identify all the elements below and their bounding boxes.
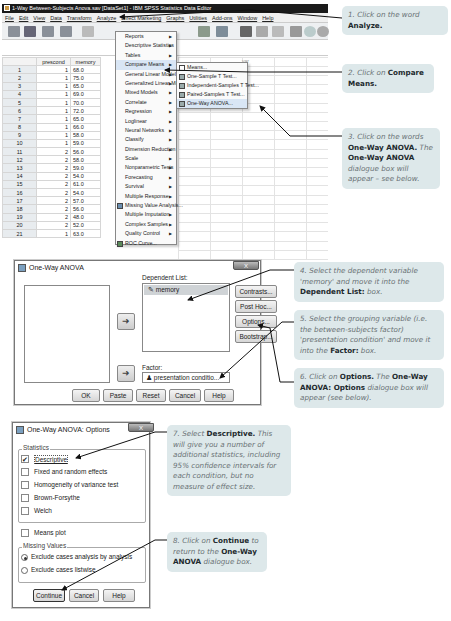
menu-item-nonparametric-tests[interactable]: Nonparametric Tests▶ — [116, 163, 176, 172]
find-icon[interactable] — [198, 26, 210, 37]
fixed-random-effects-checkbox[interactable] — [21, 468, 29, 476]
checkmark-icon: ✔ — [22, 456, 28, 463]
brown-forsythe-label[interactable]: Brown-Forsythe — [34, 494, 80, 501]
post-hoc-button[interactable]: Post Hoc... — [235, 300, 277, 313]
exclude-listwise-radio[interactable] — [21, 567, 28, 574]
descriptive-checkbox[interactable]: ✔ — [21, 455, 29, 463]
ok-button[interactable]: OK — [72, 389, 100, 402]
missing-values-group-label: Missing Values — [22, 542, 67, 549]
insert-cases-icon[interactable] — [216, 26, 228, 37]
analyze-menu: Reports▶ Descriptive Statistics▶ Tables▶… — [115, 31, 177, 245]
print-icon[interactable] — [42, 26, 54, 37]
menu-edit[interactable]: Edit — [19, 13, 28, 22]
paste-button[interactable]: Paste — [103, 389, 133, 402]
menu-item-quality-control[interactable]: Quality Control▶ — [116, 229, 176, 238]
source-variable-list[interactable] — [24, 285, 110, 383]
menu-item-reports[interactable]: Reports▶ — [116, 32, 176, 41]
welch-label[interactable]: Welch — [34, 507, 52, 514]
submenu-arrow-icon: ▶ — [169, 32, 172, 41]
fixed-random-effects-label[interactable]: Fixed and random effects — [34, 468, 107, 475]
menu-transform[interactable]: Transform — [67, 13, 92, 22]
menu-analyze[interactable]: Analyze — [97, 13, 117, 22]
menu-item-correlate[interactable]: Correlate▶ — [116, 98, 176, 107]
submenu-item-paired-samples-t-test[interactable]: Paired-Samples T Test... — [177, 90, 247, 99]
menu-window[interactable]: Window — [238, 13, 258, 22]
menu-item-missing-value-analysis[interactable]: Missing Value Analysis... — [116, 201, 176, 210]
menu-graphs[interactable]: Graphs — [166, 13, 184, 22]
menu-data[interactable]: Data — [50, 13, 62, 22]
select-cases-icon[interactable] — [272, 26, 284, 37]
means-plot-checkbox[interactable] — [21, 529, 29, 537]
weight-cases-icon[interactable] — [256, 26, 268, 37]
column-header-memory[interactable]: memory — [71, 58, 101, 66]
use-sets-icon[interactable] — [304, 26, 316, 37]
close-button[interactable]: X — [233, 261, 259, 270]
menu-item-compare-means[interactable]: Compare Means▶ — [116, 60, 176, 69]
menu-add-ons[interactable]: Add-ons — [212, 13, 233, 22]
submenu-arrow-icon: ▶ — [169, 182, 172, 191]
menu-direct-marketing[interactable]: Direct Marketing — [121, 13, 161, 22]
callout-step-6: 6. Click on Options. The One-Way ANOVA: … — [294, 368, 444, 408]
options-button[interactable]: Options... — [235, 315, 277, 328]
menu-item-generalized-linear-models[interactable]: Generalized Linear Models▶ — [116, 79, 176, 88]
menu-item-multiple-response[interactable]: Multiple Response▶ — [116, 192, 176, 201]
help-button[interactable]: Help — [103, 589, 135, 602]
menu-item-general-linear-model[interactable]: General Linear Model▶ — [116, 70, 176, 79]
menu-help[interactable]: Help — [262, 13, 273, 22]
menu-item-multiple-imputation[interactable]: Multiple Imputation▶ — [116, 210, 176, 219]
continue-button[interactable]: Continue — [33, 589, 65, 602]
submenu-arrow-icon: ▶ — [169, 210, 172, 219]
means-plot-label[interactable]: Means plot — [34, 529, 66, 536]
window-titlebar: 1-Way Between-Subjects Anova.sav [DataSe… — [2, 4, 328, 13]
reset-button[interactable]: Reset — [136, 389, 166, 402]
menu-item-scale[interactable]: Scale▶ — [116, 154, 176, 163]
dialog-recall-icon[interactable] — [60, 26, 72, 37]
menu-item-survival[interactable]: Survival▶ — [116, 182, 176, 191]
homogeneity-label[interactable]: Homogeneity of variance test — [34, 481, 118, 488]
open-icon[interactable] — [8, 26, 20, 37]
exclude-analysis-by-analysis-radio[interactable] — [21, 554, 28, 561]
menu-item-regression[interactable]: Regression▶ — [116, 107, 176, 116]
move-to-dependent-button[interactable]: ➜ — [117, 313, 135, 330]
menu-item-mixed-models[interactable]: Mixed Models▶ — [116, 88, 176, 97]
bootstrap-button[interactable]: Bootstrap... — [235, 330, 277, 343]
descriptive-label[interactable]: Descriptive — [34, 455, 68, 464]
menu-item-complex-samples[interactable]: Complex Samples▶ — [116, 220, 176, 229]
move-to-factor-button[interactable]: ➜ — [117, 365, 135, 382]
submenu-item-independent-samples-t-test[interactable]: Independent-Samples T Test... — [177, 81, 247, 90]
menu-item-classify[interactable]: Classify▶ — [116, 135, 176, 144]
column-header-prescond[interactable]: prescond — [37, 58, 71, 66]
brown-forsythe-checkbox[interactable] — [21, 494, 29, 502]
dependent-list-box[interactable]: ✎ memory — [142, 283, 230, 352]
submenu-item-one-way-anova[interactable]: One-Way ANOVA... — [177, 99, 247, 108]
save-icon[interactable] — [24, 26, 36, 37]
value-labels-icon[interactable] — [290, 26, 302, 37]
dependent-list-item[interactable]: ✎ memory — [144, 285, 228, 295]
menu-item-roc-curve[interactable]: ROC Curve... — [116, 239, 176, 248]
help-button[interactable]: Help — [204, 389, 234, 402]
menu-file[interactable]: File — [5, 13, 14, 22]
factor-field[interactable]: ♟ presentation conditio... — [142, 372, 230, 383]
undo-icon[interactable] — [82, 26, 94, 37]
exclude-listwise-label[interactable]: Exclude cases listwise — [31, 566, 96, 573]
menu-item-loglinear[interactable]: Loglinear▶ — [116, 117, 176, 126]
homogeneity-checkbox[interactable] — [21, 481, 29, 489]
submenu-item-one-sample-t-test[interactable]: One-Sample T Test... — [177, 72, 247, 81]
menu-view[interactable]: View — [33, 13, 45, 22]
show-all-variables-icon[interactable] — [317, 26, 329, 37]
menu-item-tables[interactable]: Tables▶ — [116, 51, 176, 60]
cancel-button[interactable]: Cancel — [169, 389, 201, 402]
submenu-item-means[interactable]: Means... — [177, 63, 247, 72]
cancel-button[interactable]: Cancel — [69, 589, 99, 602]
close-button[interactable]: X — [128, 423, 154, 432]
split-file-icon[interactable] — [240, 26, 252, 37]
contrasts-button[interactable]: Contrasts... — [235, 285, 277, 298]
menu-item-descriptive-statistics[interactable]: Descriptive Statistics▶ — [116, 41, 176, 50]
menu-item-forecasting[interactable]: Forecasting▶ — [116, 173, 176, 182]
exclude-analysis-by-analysis-label[interactable]: Exclude cases analysis by analysis — [31, 553, 132, 560]
menu-item-dimension-reduction[interactable]: Dimension Reduction▶ — [116, 145, 176, 154]
table-row: 7165.0 — [3, 115, 101, 123]
menu-utilities[interactable]: Utilities — [189, 13, 207, 22]
menu-item-neural-networks[interactable]: Neural Networks▶ — [116, 126, 176, 135]
welch-checkbox[interactable] — [21, 507, 29, 515]
